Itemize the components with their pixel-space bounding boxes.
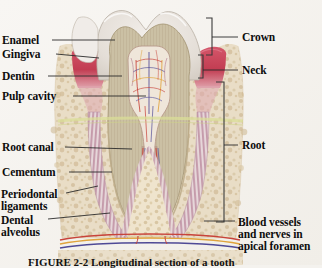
label-crown: Crown [242, 32, 275, 44]
label-root: Root [242, 140, 265, 152]
label-dentin: Dentin [2, 71, 35, 83]
label-neck: Neck [242, 65, 267, 77]
figure-caption: FIGURE 2-2 Longitudinal section of a too… [28, 256, 235, 268]
label-gingiva: Gingiva [2, 49, 40, 61]
label-pulp-cavity: Pulp cavity [2, 91, 56, 103]
label-root-canal: Root canal [2, 142, 54, 154]
label-cementum: Cementum [2, 167, 56, 179]
label-dental-alveolus: Dental alveolus [1, 214, 40, 238]
label-periodontal-ligaments: Periodontal ligaments [1, 188, 57, 212]
label-blood-line2: and nerves in [238, 228, 310, 240]
label-periodontal-line2: ligaments [1, 200, 57, 212]
label-periodontal-line1: Periodontal [1, 188, 57, 200]
label-blood-line1: Blood vessels [238, 216, 310, 228]
label-blood-line3: apical foramen [238, 240, 310, 252]
label-alveolus-line1: Dental [1, 214, 40, 226]
label-blood-vessels: Blood vessels and nerves in apical foram… [238, 216, 310, 252]
label-alveolus-line2: alveolus [1, 226, 40, 238]
label-enamel: Enamel [2, 35, 39, 47]
